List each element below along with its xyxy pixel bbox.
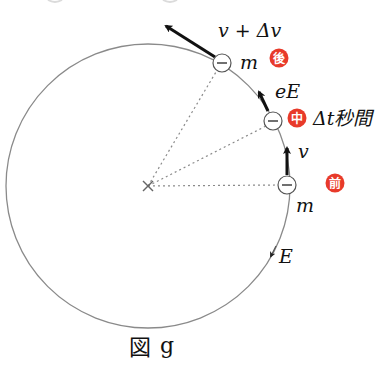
label-mass-after: m bbox=[240, 51, 258, 73]
radius-lines bbox=[148, 72, 278, 186]
svg-text:後: 後 bbox=[273, 51, 286, 66]
badge-before: 前 bbox=[326, 174, 345, 193]
badge-middle: 中 bbox=[288, 109, 307, 128]
label-time-interval: Δt秒間 bbox=[312, 107, 375, 129]
badge-after: 後 bbox=[270, 49, 289, 68]
label-mass-before: m bbox=[296, 194, 314, 216]
svg-text:中: 中 bbox=[291, 111, 303, 126]
svg-text:前: 前 bbox=[329, 176, 341, 191]
label-force: eE bbox=[275, 80, 300, 102]
field-direction-arrow bbox=[271, 246, 276, 256]
figure-caption-main: 図 bbox=[129, 335, 151, 360]
cropped-remnants bbox=[48, 0, 177, 2]
electron-after bbox=[213, 54, 231, 72]
electron-before bbox=[278, 176, 296, 194]
velocity-after-arrow bbox=[166, 26, 215, 57]
force-arrow bbox=[259, 92, 268, 111]
center-cross-icon bbox=[143, 181, 153, 191]
electron-middle bbox=[264, 112, 282, 130]
label-velocity-after: v + Δv bbox=[218, 19, 281, 41]
figure-caption-letter: g bbox=[160, 333, 174, 358]
label-field: E bbox=[278, 245, 293, 267]
circular-motion-diagram: v + Δv m eE v m E Δt秒間 後 中 前 図 g bbox=[0, 0, 392, 365]
label-velocity-before: v bbox=[298, 140, 309, 162]
